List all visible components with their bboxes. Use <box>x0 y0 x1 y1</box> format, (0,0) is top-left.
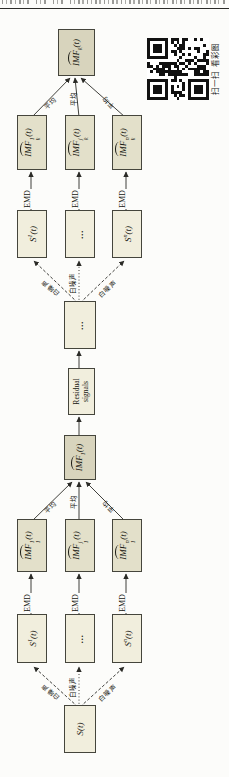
imfk-average-box: IMFk(t) <box>58 29 95 76</box>
qr-code <box>147 38 209 100</box>
imf1-trial-j-label: IMFj1(t) <box>71 531 89 560</box>
noisy-signal-n-label: Sn(t) <box>122 631 133 647</box>
imfk-trial-n-box: IMFnk(t) <box>112 115 142 170</box>
imf1-trial-n-label: IMFn1(t) <box>118 531 136 560</box>
eemd-flowchart: S(t) S1(t) … Sn(t) IMF11(t) IMFj1(t) IMF… <box>0 0 229 777</box>
residual-signals-box: Residualsignals <box>68 368 95 415</box>
noisy-signal-1-label: S1(t) <box>27 226 38 242</box>
ellipsis: … <box>75 229 85 240</box>
source-signal-box: S(t) <box>64 705 96 753</box>
noisy-signal-1-box-stage2: S1(t) <box>17 210 47 258</box>
imfk-average-label: IMFk(t) <box>71 39 83 66</box>
imfk-trial-j-box: IMFjk(t) <box>65 115 95 170</box>
noisy-signal-1-label: S1(t) <box>27 631 38 647</box>
noisy-signal-n-box: Sn(t) <box>112 614 142 663</box>
emd-label: EMD <box>118 189 127 209</box>
noisy-signal-1-box: S1(t) <box>17 614 47 663</box>
qr-caption: 扫一扫 看彩图 <box>209 33 220 105</box>
imfk-trial-j-label: IMFjk(t) <box>71 128 89 156</box>
white-noise-label: 白噪声 <box>67 273 77 294</box>
noisy-signal-n-box-stage2: Sn(t) <box>112 210 142 258</box>
imfk-trial-1-label: IMF1k(t) <box>23 128 41 157</box>
emd-label: EMD <box>118 593 127 613</box>
emd-label: EMD <box>23 593 32 613</box>
imfk-trial-1-box: IMF1k(t) <box>17 115 47 170</box>
noisy-signal-ellipsis-box: … <box>65 614 95 663</box>
imf1-average-label: IMF1(t) <box>74 444 86 472</box>
ellipsis: … <box>75 633 85 644</box>
source-signal-label: S(t) <box>75 723 85 736</box>
emd-label: EMD <box>71 593 80 613</box>
ellipsis: … <box>75 320 85 331</box>
figure-page: S(t) S1(t) … Sn(t) IMF11(t) IMFj1(t) IMF… <box>0 0 229 777</box>
imf1-trial-1-box: IMF11(t) <box>17 519 47 572</box>
emd-label: EMD <box>71 189 80 209</box>
imf1-average-box: IMF1(t) <box>64 435 96 480</box>
average-label: 平均 <box>68 92 78 106</box>
iteration-ellipsis-box: … <box>64 301 96 349</box>
imfk-trial-n-label: IMFnk(t) <box>118 128 136 157</box>
emd-label: EMD <box>23 189 32 209</box>
imf1-trial-n-box: IMFn1(t) <box>112 519 142 572</box>
imf1-trial-j-box: IMFj1(t) <box>65 519 95 572</box>
noisy-signal-n-label: Sn(t) <box>122 226 133 242</box>
noisy-signal-ellipsis-box-stage2: … <box>65 210 95 258</box>
imf1-trial-1-label: IMF11(t) <box>23 531 41 560</box>
white-noise-label: 白噪声 <box>67 677 77 698</box>
residual-signals-label: Residualsignals <box>73 378 90 404</box>
average-label: 平均 <box>68 495 78 509</box>
